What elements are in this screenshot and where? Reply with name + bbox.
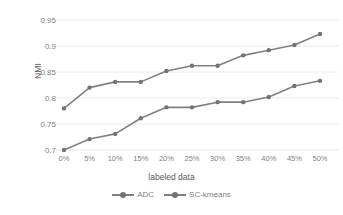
data-point bbox=[241, 53, 245, 57]
x-axis-tick-label: 35% bbox=[236, 154, 251, 163]
chart-legend: ADCSC-kmeans bbox=[0, 190, 343, 199]
nmi-vs-labeled-data-line-chart: NMI 0.70.750.80.850.90.95 0%5%10%15%20%2… bbox=[0, 0, 343, 215]
data-point bbox=[87, 85, 91, 89]
x-axis-tick-label: 50% bbox=[312, 154, 327, 163]
data-point bbox=[215, 100, 219, 104]
x-axis-tick-labels: 0%5%10%15%20%25%30%35%40%45%50% bbox=[55, 154, 340, 168]
legend-item[interactable]: SC-kmeans bbox=[164, 190, 231, 199]
data-point bbox=[190, 105, 194, 109]
data-point bbox=[62, 148, 66, 152]
data-point bbox=[113, 80, 117, 84]
legend-label: ADC bbox=[137, 190, 154, 199]
x-axis-tick-label: 0% bbox=[59, 154, 70, 163]
data-point bbox=[215, 64, 219, 68]
x-axis-tick-label: 25% bbox=[184, 154, 199, 163]
legend-item[interactable]: ADC bbox=[112, 190, 154, 199]
data-point bbox=[62, 106, 66, 110]
data-point bbox=[318, 79, 322, 83]
data-point bbox=[164, 105, 168, 109]
x-axis-tick-label: 5% bbox=[84, 154, 95, 163]
legend-marker-icon bbox=[112, 191, 134, 199]
series-layer bbox=[62, 32, 322, 152]
data-point bbox=[190, 64, 194, 68]
x-axis-tick-label: 20% bbox=[159, 154, 174, 163]
series-line-adc bbox=[64, 81, 320, 150]
x-axis-tick-label: 30% bbox=[210, 154, 225, 163]
data-point bbox=[139, 116, 143, 120]
x-axis-tick-label: 15% bbox=[133, 154, 148, 163]
plot-area bbox=[0, 0, 343, 215]
x-axis-title: labeled data bbox=[0, 172, 343, 182]
x-axis-tick-label: 10% bbox=[108, 154, 123, 163]
data-point bbox=[267, 95, 271, 99]
x-axis-tick-label: 40% bbox=[261, 154, 276, 163]
data-point bbox=[292, 43, 296, 47]
series-line-sc-kmeans bbox=[64, 34, 320, 108]
data-point bbox=[241, 100, 245, 104]
data-point bbox=[164, 69, 168, 73]
legend-label: SC-kmeans bbox=[189, 190, 231, 199]
data-point bbox=[318, 32, 322, 36]
data-point bbox=[292, 84, 296, 88]
x-axis-tick-label: 45% bbox=[287, 154, 302, 163]
data-point bbox=[113, 132, 117, 136]
data-point bbox=[267, 48, 271, 52]
data-point bbox=[87, 137, 91, 141]
data-point bbox=[139, 80, 143, 84]
legend-marker-icon bbox=[164, 191, 186, 199]
